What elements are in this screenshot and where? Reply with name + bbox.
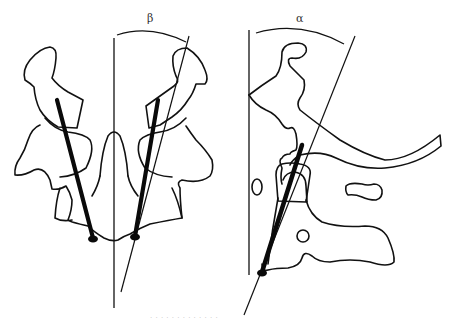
alpha-angle-arc	[256, 28, 344, 44]
dens-lower	[92, 176, 138, 196]
figure-caption: · · · · · · · · · · · · ·	[150, 314, 320, 322]
alpha-angle-label: α	[296, 13, 303, 24]
right-trajectory-line	[121, 36, 189, 292]
beta-angle-arc	[117, 31, 186, 42]
right-screw-head	[130, 234, 140, 241]
beta-angle-label: β	[147, 13, 153, 24]
coronal-view-drawing	[0, 0, 457, 325]
transverse-process	[346, 183, 382, 200]
spine-screw-diagram: β α · · · · · · · · · · · · ·	[0, 0, 457, 325]
left-screw-head	[88, 236, 98, 243]
foramen-oval	[252, 179, 262, 195]
atlas-anterior	[249, 95, 297, 184]
left-lateral-mass	[24, 47, 83, 128]
left-screw	[57, 100, 93, 238]
foramen-circle	[297, 230, 309, 242]
sagittal-screw-head	[257, 270, 267, 277]
